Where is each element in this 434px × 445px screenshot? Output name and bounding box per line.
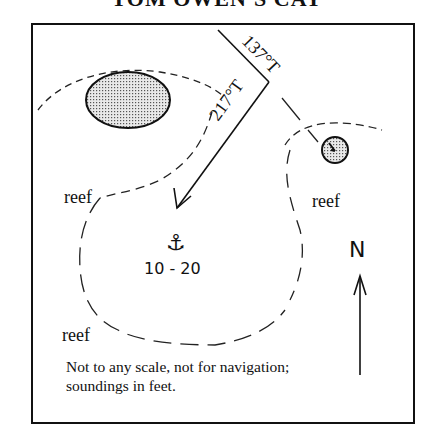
north-label: N bbox=[349, 237, 365, 262]
large-cay-island bbox=[86, 72, 170, 128]
disclaimer-note: Not to any scale, not for navigation; so… bbox=[66, 357, 289, 395]
soundings-label: 10 - 20 bbox=[144, 259, 201, 278]
reef-outline-right-side bbox=[287, 150, 303, 300]
note-line-1: Not to any scale, not for navigation; bbox=[66, 357, 289, 376]
reef-label-right: reef bbox=[312, 191, 340, 212]
anchor-icon: ⚓ bbox=[166, 230, 186, 255]
bearing-label-217: 217°T bbox=[205, 76, 248, 124]
reef-label-left: reef bbox=[64, 187, 92, 208]
bearing-label-137: 137°T bbox=[238, 31, 284, 77]
reef-label-bottom: reef bbox=[62, 325, 90, 346]
note-line-2: soundings in feet. bbox=[66, 376, 289, 395]
